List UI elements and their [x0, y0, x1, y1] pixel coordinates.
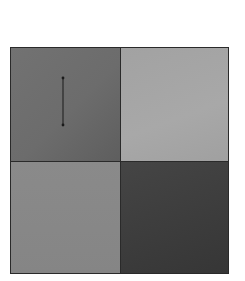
quadrant-top-right	[121, 48, 228, 161]
marker-endpoint-top	[62, 77, 65, 80]
grayscale-grid	[10, 47, 229, 274]
quadrant-bottom-left	[11, 162, 120, 273]
vertical-line-marker	[11, 48, 120, 161]
quadrant-bottom-right	[121, 162, 228, 273]
marker-endpoint-bottom	[62, 124, 65, 127]
quadrant-top-left	[11, 48, 120, 161]
